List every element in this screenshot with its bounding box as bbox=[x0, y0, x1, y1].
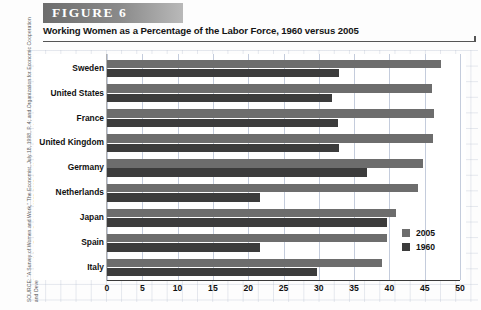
figure-number-banner: FIGURE 6 bbox=[43, 3, 183, 23]
figure-title: Working Women as a Percentage of the Lab… bbox=[43, 25, 473, 36]
legend-label-1960: 1960 bbox=[416, 242, 435, 252]
category-label-japan: Japan bbox=[28, 205, 104, 230]
category-label-italy: Italy bbox=[28, 255, 104, 280]
bar-italy-1960 bbox=[107, 268, 317, 276]
legend-swatch-1960 bbox=[402, 243, 410, 251]
figure-container: SOURCE: "A Survey of Women and Work," Th… bbox=[0, 0, 481, 310]
bar-france-2005 bbox=[107, 109, 434, 117]
bar-france-1960 bbox=[107, 119, 338, 127]
category-label-united-states: United States bbox=[28, 81, 104, 106]
x-tick-0: 0 bbox=[105, 283, 110, 293]
category-label-text: Germany bbox=[30, 163, 104, 172]
category-label-text: United States bbox=[30, 89, 104, 98]
bar-netherlands-2005 bbox=[107, 184, 418, 192]
category-label-text: Sweden bbox=[30, 64, 104, 73]
title-divider-endcap bbox=[474, 36, 476, 42]
category-label-france: France bbox=[28, 106, 104, 131]
title-divider bbox=[43, 41, 476, 42]
chart-legend: 2005 1960 bbox=[402, 228, 464, 256]
bar-germany-2005 bbox=[107, 159, 423, 167]
bar-sweden-1960 bbox=[107, 69, 339, 77]
legend-item-1960: 1960 bbox=[402, 242, 464, 252]
x-tick-10: 10 bbox=[173, 283, 183, 293]
bar-spain-1960 bbox=[107, 243, 260, 251]
x-tick-45: 45 bbox=[420, 283, 430, 293]
category-label-text: Japan bbox=[30, 213, 104, 222]
category-label-spain: Spain bbox=[28, 230, 104, 255]
x-tick-50: 50 bbox=[455, 283, 465, 293]
x-tick-20: 20 bbox=[243, 283, 253, 293]
bar-japan-2005 bbox=[107, 209, 396, 217]
bar-japan-1960 bbox=[107, 218, 387, 226]
x-tick-15: 15 bbox=[208, 283, 218, 293]
bar-united-states-2005 bbox=[107, 84, 432, 92]
category-label-text: Netherlands bbox=[30, 188, 104, 197]
bar-germany-1960 bbox=[107, 168, 367, 176]
legend-label-2005: 2005 bbox=[416, 228, 435, 238]
chart-plot-area: SwedenUnited StatesFranceUnited KingdomG… bbox=[28, 50, 478, 302]
bar-italy-2005 bbox=[107, 259, 382, 267]
category-label-text: United Kingdom bbox=[30, 138, 104, 147]
bar-united-states-1960 bbox=[107, 94, 332, 102]
bar-sweden-2005 bbox=[107, 60, 441, 68]
x-tick-35: 35 bbox=[349, 283, 359, 293]
x-tick-5: 5 bbox=[140, 283, 145, 293]
category-label-text: France bbox=[30, 114, 104, 123]
category-label-text: Italy bbox=[30, 263, 104, 272]
category-label-united-kingdom: United Kingdom bbox=[28, 131, 104, 156]
legend-item-2005: 2005 bbox=[402, 228, 464, 238]
bar-united-kingdom-1960 bbox=[107, 144, 339, 152]
x-axis-line bbox=[107, 280, 460, 281]
category-label-sweden: Sweden bbox=[28, 56, 104, 81]
figure-number-label: FIGURE 6 bbox=[43, 5, 127, 21]
category-label-text: Spain bbox=[30, 238, 104, 247]
bar-netherlands-1960 bbox=[107, 193, 260, 201]
category-label-germany: Germany bbox=[28, 156, 104, 181]
legend-swatch-2005 bbox=[402, 229, 410, 237]
x-tick-30: 30 bbox=[314, 283, 324, 293]
bar-spain-2005 bbox=[107, 234, 387, 242]
x-tick-25: 25 bbox=[279, 283, 289, 293]
bar-united-kingdom-2005 bbox=[107, 134, 433, 142]
category-label-netherlands: Netherlands bbox=[28, 180, 104, 205]
x-tick-40: 40 bbox=[385, 283, 395, 293]
